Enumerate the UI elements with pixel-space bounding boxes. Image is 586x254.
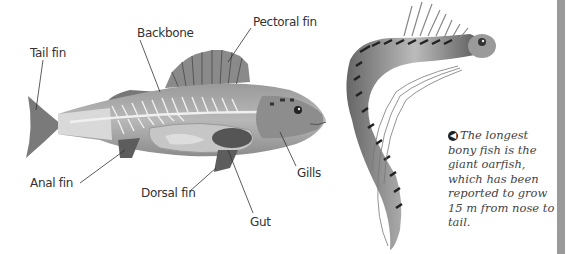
label-gills: Gills [297, 166, 321, 180]
arrow-left-circle-icon: ◀ [448, 131, 458, 141]
oarfish-caption: ◀The longest bony fish is the giant oarf… [448, 128, 558, 230]
label-dorsal-fin: Dorsal fin [141, 186, 195, 200]
label-pectoral-fin: Pectoral fin [253, 15, 317, 29]
label-anal-fin: Anal fin [30, 176, 73, 190]
tail-fin-shape [26, 96, 62, 158]
label-backbone: Backbone [137, 26, 194, 40]
caption-text: The longest bony fish is the giant oarfi… [448, 128, 554, 229]
label-gut: Gut [250, 215, 271, 229]
label-tail-fin: Tail fin [30, 46, 66, 60]
page-edge-bar [557, 0, 565, 254]
